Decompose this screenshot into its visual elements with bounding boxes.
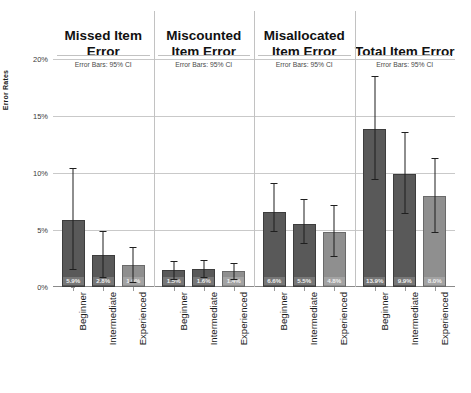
bar-value-label: 6.6% [264, 277, 285, 285]
bar-value-label: 5.9% [63, 277, 84, 285]
panel-divider-rule [359, 55, 452, 56]
x-axis-tick-mark [304, 287, 305, 291]
x-axis-category-label: Intermediate [308, 292, 319, 345]
x-axis-category-label: Intermediate [107, 292, 118, 345]
error-bar-cap-lower [200, 277, 207, 278]
bar-value-label: 1.6% [193, 277, 214, 285]
bar-value-label: 4.8% [324, 277, 345, 285]
x-axis-category-label: Beginner [379, 292, 390, 330]
panel-divider [154, 11, 155, 287]
bar-value-label: 13.9% [364, 277, 385, 285]
x-axis-category-label: Beginner [77, 292, 88, 330]
bar-group: 5.9% [62, 59, 85, 287]
panel-divider-rule [258, 55, 351, 56]
error-bar [103, 231, 104, 277]
error-bar-cap-lower [401, 213, 408, 214]
error-bar [274, 183, 275, 231]
error-bar [73, 168, 74, 268]
x-axis-tick-mark [334, 287, 335, 291]
error-bar-cap-lower [230, 279, 237, 280]
x-axis-tick-mark [435, 287, 436, 291]
x-axis-tick-mark [103, 287, 104, 291]
bar-group: 4.8% [323, 59, 346, 287]
error-bar-cap-lower [70, 269, 77, 270]
error-bar [173, 261, 174, 279]
error-bar-cap-upper [100, 231, 107, 232]
error-bar-cap-upper [200, 260, 207, 261]
x-axis-category-label: Experienced [338, 292, 349, 345]
error-bar-cap-lower [130, 282, 137, 283]
chart-panel: Total Item ErrorError Bars: 95% CI13.9%9… [355, 59, 456, 287]
x-axis-tick-mark [73, 287, 74, 291]
chart-panel: Miscounted Item ErrorError Bars: 95% CI1… [154, 59, 255, 287]
error-bar-cap-upper [230, 263, 237, 264]
y-axis-ticks: 0%5%10%15%20% [22, 0, 52, 393]
panel-title: Total Item Error [355, 44, 456, 60]
y-axis-tick-label: 0% [37, 283, 48, 292]
y-axis-title: Error Rates [2, 45, 14, 135]
bar-group: 5.5% [293, 59, 316, 287]
bar-group: 8.0% [423, 59, 446, 287]
x-axis-categories: BeginnerIntermediateExperiencedBeginnerI… [53, 292, 455, 388]
chart-panel: Misallocated Item ErrorError Bars: 95% C… [254, 59, 355, 287]
error-bar [334, 205, 335, 256]
error-bar [374, 76, 375, 179]
panel-bars: 6.6%5.5%4.8% [254, 59, 355, 287]
bar-value-label: 5.5% [294, 277, 315, 285]
x-axis-tick-mark [204, 287, 205, 291]
panel-divider [355, 11, 356, 287]
chart-figure: Error Rates 0%5%10%15%20% Missed Item Er… [0, 0, 471, 393]
bar-group: 6.6% [263, 59, 286, 287]
x-axis-category-label: Intermediate [409, 292, 420, 345]
bar-group: 1.5% [162, 59, 185, 287]
bar-value-label: 9.9% [394, 277, 415, 285]
bar-value-label: 2.8% [93, 277, 114, 285]
y-axis-tick-label: 15% [33, 112, 48, 121]
error-bar-cap-upper [130, 247, 137, 248]
error-bar-cap-upper [70, 168, 77, 169]
bar-group: 1.9% [122, 59, 145, 287]
panel-divider-rule [57, 55, 150, 56]
y-axis-tick-label: 5% [37, 226, 48, 235]
error-bar-cap-lower [431, 232, 438, 233]
panel-bars: 13.9%9.9%8.0% [355, 59, 456, 287]
plot-area: Missed Item ErrorError Bars: 95% CI5.9%2… [53, 59, 455, 287]
y-axis-tick-label: 10% [33, 169, 48, 178]
panel-divider [254, 11, 255, 287]
y-axis-tick-label: 20% [33, 55, 48, 64]
error-bar-cap-lower [371, 179, 378, 180]
x-axis-category-label: Experienced [439, 292, 450, 345]
error-bar [434, 158, 435, 232]
chart-panel: Missed Item ErrorError Bars: 95% CI5.9%2… [53, 59, 154, 287]
x-axis-tick-mark [234, 287, 235, 291]
error-bar [304, 199, 305, 242]
x-axis-category-label: Experienced [137, 292, 148, 345]
bar-value-label: 8.0% [424, 277, 445, 285]
error-bar [203, 260, 204, 277]
panel-bars: 1.5%1.6%1.4% [154, 59, 255, 287]
error-bar-cap-upper [331, 205, 338, 206]
bar-group: 9.9% [393, 59, 416, 287]
error-bar-cap-upper [271, 183, 278, 184]
x-axis-tick-mark [375, 287, 376, 291]
x-axis-tick-mark [133, 287, 134, 291]
error-bar-cap-lower [170, 279, 177, 280]
error-bar-cap-upper [431, 158, 438, 159]
x-axis-category-label: Beginner [278, 292, 289, 330]
error-bar-cap-upper [371, 76, 378, 77]
x-axis-category-label: Beginner [178, 292, 189, 330]
x-axis-tick-mark [174, 287, 175, 291]
bar-group: 1.6% [192, 59, 215, 287]
panel-divider-rule [158, 55, 251, 56]
x-axis-category-label: Experienced [238, 292, 249, 345]
error-bar-cap-lower [100, 277, 107, 278]
error-bar [133, 247, 134, 282]
bar-group: 2.8% [92, 59, 115, 287]
panel-bars: 5.9%2.8%1.9% [53, 59, 154, 287]
error-bar [233, 263, 234, 279]
bar-group: 1.4% [222, 59, 245, 287]
error-bar-cap-upper [301, 199, 308, 200]
error-bar-cap-lower [301, 243, 308, 244]
x-axis-tick-mark [274, 287, 275, 291]
error-bar-cap-upper [401, 132, 408, 133]
